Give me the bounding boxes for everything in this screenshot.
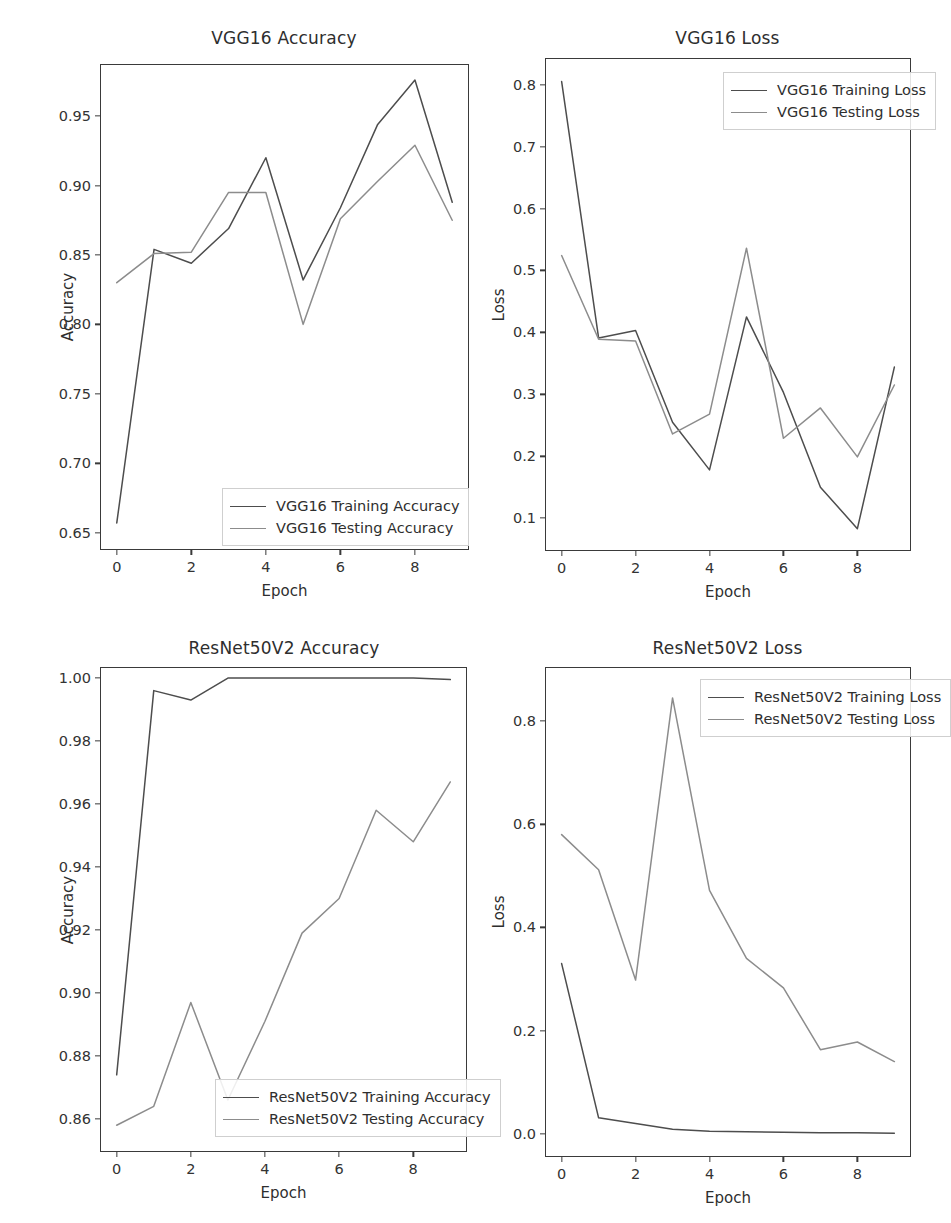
legend-item-testing: VGG16 Testing Loss (731, 101, 926, 123)
panel-title: VGG16 Accuracy (100, 28, 468, 48)
x-tick-mark (783, 551, 784, 556)
x-tick-mark (635, 1157, 636, 1162)
x-tick-label: 6 (779, 1166, 788, 1182)
x-tick-mark (635, 551, 636, 556)
y-tick-mark (95, 463, 100, 464)
y-tick-label: 0.1 (513, 510, 536, 526)
x-tick-mark (338, 1152, 339, 1157)
y-tick-label: 0.90 (59, 178, 91, 194)
y-tick-label: 0.5 (513, 262, 536, 278)
panel-vgg16-accuracy: VGG16 Accuracy 0.650.700.750.800.850.900… (0, 0, 468, 610)
legend: ResNet50V2 Training Accuracy ResNet50V2 … (215, 1079, 501, 1137)
y-tick-label: 0.8 (513, 713, 536, 729)
y-tick-label: 0.85 (59, 247, 91, 263)
y-tick-label: 0.95 (59, 108, 91, 124)
x-tick-label: 8 (853, 1166, 862, 1182)
y-tick-label: 0.75 (59, 386, 91, 402)
y-tick-label: 0.2 (513, 448, 536, 464)
x-tick-label: 8 (409, 1161, 418, 1177)
y-tick-mark (95, 992, 100, 993)
y-tick-mark (540, 1030, 545, 1031)
legend-item-testing: ResNet50V2 Testing Loss (708, 708, 941, 730)
legend: VGG16 Training Loss VGG16 Testing Loss (723, 72, 936, 130)
x-tick-label: 6 (334, 1161, 343, 1177)
y-tick-label: 0.4 (513, 324, 536, 340)
legend-item-training: ResNet50V2 Training Loss (708, 686, 941, 708)
y-tick-label: 0.96 (59, 796, 91, 812)
panel-resnet50v2-accuracy: ResNet50V2 Accuracy 0.860.880.900.920.94… (0, 610, 468, 1223)
y-tick-mark (95, 532, 100, 533)
legend-line-training-icon (708, 697, 744, 698)
x-tick-mark (190, 1152, 191, 1157)
legend-line-training-icon (223, 1097, 259, 1098)
x-tick-mark (857, 1157, 858, 1162)
y-tick-label: 0.0 (513, 1126, 536, 1142)
y-axis-title: Accuracy (59, 273, 77, 341)
x-axis-title: Epoch (100, 1184, 467, 1202)
y-axis-title: Accuracy (59, 875, 77, 943)
x-tick-label: 4 (705, 560, 714, 576)
y-tick-label: 0.6 (513, 201, 536, 217)
legend-label-testing: ResNet50V2 Testing Accuracy (269, 1111, 484, 1127)
x-tick-label: 2 (186, 1161, 195, 1177)
x-tick-label: 4 (260, 1161, 269, 1177)
y-tick-mark (540, 270, 545, 271)
plot-area-vgg16-loss: 0.10.20.30.40.50.60.70.802468 Loss Epoch… (545, 58, 911, 551)
x-tick-label: 2 (631, 560, 640, 576)
x-tick-mark (413, 1152, 414, 1157)
legend-label-training: ResNet50V2 Training Loss (754, 689, 941, 705)
y-tick-label: 0.3 (513, 386, 536, 402)
x-tick-mark (264, 1152, 265, 1157)
x-tick-label: 0 (112, 559, 121, 575)
legend-item-testing: VGG16 Testing Accuracy (230, 517, 459, 539)
legend-line-training-icon (731, 90, 767, 91)
legend-line-testing-icon (223, 1119, 259, 1120)
legend-item-training: VGG16 Training Accuracy (230, 495, 459, 517)
x-tick-mark (783, 1157, 784, 1162)
y-tick-label: 0.88 (59, 1048, 91, 1064)
panel-title: ResNet50V2 Accuracy (100, 638, 468, 658)
x-tick-mark (414, 550, 415, 555)
y-tick-mark (95, 929, 100, 930)
y-tick-label: 0.4 (513, 919, 536, 935)
y-tick-mark (540, 824, 545, 825)
y-tick-mark (95, 677, 100, 678)
y-tick-mark (540, 394, 545, 395)
y-tick-label: 1.00 (59, 670, 91, 686)
panel-vgg16-loss: VGG16 Loss 0.10.20.30.40.50.60.70.802468… (468, 0, 937, 610)
plot-area-vgg16-accuracy: 0.650.700.750.800.850.900.9502468 Accura… (100, 64, 469, 550)
x-tick-mark (561, 551, 562, 556)
legend-label-testing: VGG16 Testing Loss (777, 104, 920, 120)
legend-line-training-icon (230, 506, 266, 507)
y-tick-mark (95, 115, 100, 116)
y-tick-mark (540, 456, 545, 457)
x-tick-mark (116, 1152, 117, 1157)
x-axis-title: Epoch (545, 1189, 911, 1207)
legend-item-training: ResNet50V2 Training Accuracy (223, 1086, 491, 1108)
y-tick-mark (95, 740, 100, 741)
y-tick-mark (95, 803, 100, 804)
y-tick-label: 0.86 (59, 1111, 91, 1127)
y-tick-mark (95, 1118, 100, 1119)
y-axis-title: Loss (490, 288, 508, 321)
y-tick-mark (95, 324, 100, 325)
y-tick-label: 0.6 (513, 816, 536, 832)
legend-line-testing-icon (731, 112, 767, 113)
x-tick-mark (191, 550, 192, 555)
legend-label-training: ResNet50V2 Training Accuracy (269, 1089, 491, 1105)
panel-title: ResNet50V2 Loss (528, 638, 927, 658)
plot-area-resnet50v2-loss: 0.00.20.40.60.802468 Loss Epoch ResNet50… (545, 667, 911, 1157)
x-tick-label: 6 (336, 559, 345, 575)
x-axis-title: Epoch (545, 583, 911, 601)
y-axis-title: Loss (490, 896, 508, 929)
legend: ResNet50V2 Training Loss ResNet50V2 Test… (700, 679, 951, 737)
y-tick-label: 0.70 (59, 455, 91, 471)
y-tick-label: 0.8 (513, 77, 536, 93)
x-tick-label: 0 (557, 1166, 566, 1182)
y-tick-mark (95, 1055, 100, 1056)
panel-title: VGG16 Loss (528, 28, 927, 48)
x-tick-label: 8 (853, 560, 862, 576)
y-tick-mark (95, 393, 100, 394)
y-tick-mark (540, 332, 545, 333)
